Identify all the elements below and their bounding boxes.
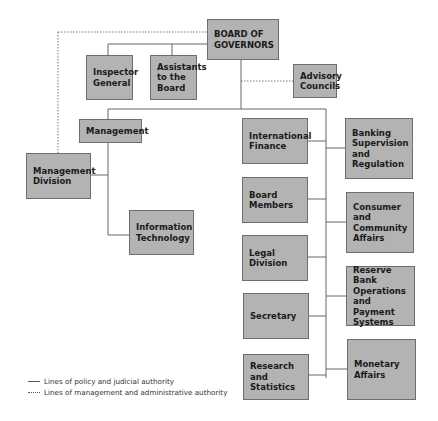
node-consumer-community-affairs: Consumer and Community Affairs bbox=[346, 192, 414, 253]
node-secretary: Secretary bbox=[243, 293, 309, 339]
node-label: Research and Statistics bbox=[250, 361, 302, 393]
node-reserve-bank-operations: Reserve Bank Operations and Payment Syst… bbox=[346, 266, 415, 326]
node-inspector-general: Inspector General bbox=[86, 55, 133, 100]
legend-solid-label: Lines of policy and judicial authority bbox=[44, 377, 174, 386]
node-label: Legal Division bbox=[249, 248, 301, 269]
solid-line-swatch bbox=[28, 381, 40, 382]
node-label: Advisory Councils bbox=[300, 71, 342, 92]
legend-solid: Lines of policy and judicial authority bbox=[28, 377, 174, 386]
node-label: Secretary bbox=[250, 311, 296, 322]
node-label: Banking Supervision and Regulation bbox=[352, 128, 409, 170]
node-legal-division: Legal Division bbox=[242, 235, 308, 281]
node-label: Assistants to the Board bbox=[157, 62, 207, 94]
node-management-division: Management Division bbox=[26, 153, 91, 199]
node-information-technology: Information Technology bbox=[129, 210, 194, 255]
node-label: Monetary Affairs bbox=[354, 359, 409, 380]
node-board-members: Board Members bbox=[242, 177, 308, 223]
node-research-and-statistics: Research and Statistics bbox=[243, 354, 309, 400]
node-label: Management bbox=[86, 126, 149, 137]
node-label: International Finance bbox=[249, 131, 312, 152]
node-label: Board Members bbox=[249, 190, 301, 211]
node-international-finance: International Finance bbox=[242, 118, 308, 164]
node-board-of-governors: BOARD OF GOVERNORS bbox=[207, 19, 279, 60]
node-advisory-councils: Advisory Councils bbox=[293, 64, 337, 98]
legend-dotted-label: Lines of management and administrative a… bbox=[44, 388, 227, 397]
node-label: Inspector General bbox=[93, 67, 138, 88]
node-label: Reserve Bank Operations and Payment Syst… bbox=[353, 265, 408, 328]
node-monetary-affairs: Monetary Affairs bbox=[347, 339, 416, 400]
node-banking-supervision: Banking Supervision and Regulation bbox=[345, 118, 413, 179]
node-label: Information Technology bbox=[136, 222, 192, 243]
node-label: BOARD OF GOVERNORS bbox=[214, 29, 274, 50]
dotted-line-swatch bbox=[28, 392, 40, 393]
node-label: Management Division bbox=[33, 166, 96, 187]
node-management: Management bbox=[79, 119, 142, 143]
node-assistants-to-the-board: Assistants to the Board bbox=[150, 55, 197, 100]
node-label: Consumer and Community Affairs bbox=[353, 202, 407, 244]
legend-dotted: Lines of management and administrative a… bbox=[28, 388, 227, 397]
